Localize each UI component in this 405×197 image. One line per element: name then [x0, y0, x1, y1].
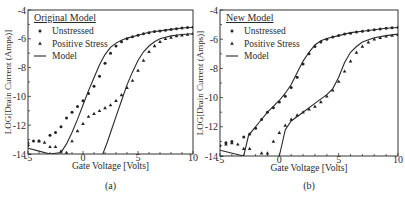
- legend-label: Unstressed: [52, 26, 94, 36]
- unstressed-point: [242, 136, 245, 139]
- unstressed-point: [219, 144, 222, 147]
- x-axis-label: Gate Voltage [Volts]: [270, 163, 347, 173]
- unstressed-point: [296, 76, 299, 79]
- positive-stress-point: [278, 131, 282, 134]
- positive-stress-point: [272, 140, 276, 143]
- legend-label: Model: [244, 51, 269, 61]
- unstressed-point: [98, 75, 101, 78]
- panel-caption: (a): [105, 180, 116, 192]
- positive-stress-point: [70, 139, 74, 142]
- chart-panel-a: -50510-4-6-8-10-12-14Gate Voltage [Volts…: [3, 5, 198, 193]
- legend-triangle-icon: [230, 42, 234, 45]
- positive-stress-point: [343, 69, 347, 72]
- positive-stress-point: [54, 145, 58, 148]
- unstressed-point: [49, 134, 52, 137]
- positive-stress-point: [65, 151, 69, 154]
- positive-stress-point: [349, 59, 353, 62]
- unstressed-point: [32, 140, 35, 143]
- legend-circle-icon: [231, 30, 234, 33]
- unstressed-point: [65, 117, 68, 120]
- positive-stress-point: [131, 79, 135, 82]
- legend-circle-icon: [39, 30, 42, 33]
- positive-stress-point: [147, 50, 151, 53]
- panel-caption: (b): [303, 180, 315, 192]
- positive-stress-point: [153, 44, 157, 47]
- unstressed-point: [27, 144, 30, 147]
- legend-triangle-icon: [38, 42, 42, 45]
- legend-title: New Model: [226, 12, 274, 23]
- y-tick-label: -4: [18, 5, 26, 16]
- y-tick-label: -10: [13, 91, 26, 102]
- y-tick-label: -6: [210, 34, 218, 45]
- y-tick-label: -8: [18, 62, 26, 73]
- y-axis-label: LOG[Drain Current (Amps)]: [3, 30, 13, 134]
- y-tick-label: -6: [18, 33, 26, 44]
- positive-stress-point: [266, 151, 270, 154]
- y-tick-label: -14: [205, 151, 218, 162]
- legend-label: Positive Stress: [52, 39, 108, 49]
- unstressed-point: [54, 131, 57, 134]
- unstressed-point: [60, 125, 63, 128]
- positive-stress-point: [260, 151, 264, 154]
- positive-stress-point: [355, 50, 359, 53]
- y-axis-label: LOG[Drain Current (Amps)]: [195, 31, 205, 135]
- positive-stress-point: [109, 103, 113, 106]
- positive-stress-point: [283, 123, 287, 126]
- y-tick-label: -4: [210, 5, 218, 16]
- legend-label: Model: [52, 51, 77, 61]
- unstressed-point: [76, 105, 79, 108]
- positive-stress-point: [76, 129, 80, 132]
- positive-stress-point: [92, 112, 96, 115]
- unstressed-point: [109, 52, 112, 55]
- positive-stress-point: [87, 115, 91, 118]
- positive-stress-point: [136, 69, 140, 72]
- y-tick-label: -12: [205, 121, 218, 132]
- positive-stress-point: [361, 45, 365, 48]
- y-tick-label: -8: [210, 63, 218, 74]
- positive-stress-point: [114, 99, 118, 102]
- legend-label: Unstressed: [244, 26, 286, 36]
- y-tick-label: -10: [205, 92, 218, 103]
- y-tick-label: -12: [13, 120, 26, 131]
- chart-panel-b: -50510-4-6-8-10-12-14Gate Voltage [Volts…: [195, 5, 403, 193]
- model-curve: [279, 34, 398, 156]
- unstressed-point: [115, 45, 118, 48]
- unstressed-point: [93, 85, 96, 88]
- unstressed-point: [71, 111, 74, 114]
- positive-stress-point: [142, 59, 146, 62]
- x-tick-label: 10: [393, 154, 403, 165]
- positive-stress-point: [48, 145, 52, 148]
- figure: -50510-4-6-8-10-12-14Gate Voltage [Volts…: [0, 0, 405, 197]
- positive-stress-point: [98, 109, 102, 112]
- positive-stress-point: [236, 142, 240, 145]
- positive-stress-point: [103, 106, 107, 109]
- positive-stress-point: [248, 147, 252, 150]
- x-axis-label: Gate Voltage [Volts]: [72, 161, 149, 171]
- positive-stress-point: [43, 141, 47, 144]
- unstressed-point: [104, 62, 107, 65]
- positive-stress-point: [81, 122, 85, 125]
- y-tick-label: -14: [13, 149, 26, 160]
- legend-label: Positive Stress: [244, 39, 300, 49]
- legend-title: Original Model: [34, 12, 96, 23]
- positive-stress-point: [26, 141, 30, 144]
- positive-stress-point: [158, 40, 162, 43]
- x-tick-label: 10: [188, 152, 198, 163]
